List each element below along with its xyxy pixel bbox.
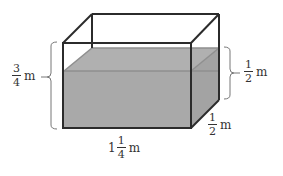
water-height-denominator: 2 [245, 72, 252, 84]
length-label: 1 1 4 m [108, 135, 140, 160]
tank-top-right-edge [191, 14, 219, 43]
water-front-face [64, 71, 191, 128]
length-numerator: 1 [117, 135, 126, 148]
right-brace [224, 47, 234, 99]
left-brace [47, 42, 57, 129]
water-height-fraction: 1 2 [244, 59, 253, 84]
tank-height-denominator: 4 [13, 76, 20, 88]
length-denominator: 4 [118, 148, 125, 160]
tank-height-label: 3 4 m [12, 63, 35, 88]
tank-diagram [0, 0, 283, 176]
length-unit: m [129, 141, 140, 155]
water-height-numerator: 1 [244, 59, 253, 72]
water-height-unit: m [256, 65, 267, 79]
depth-unit: m [220, 118, 231, 132]
tank-height-numerator: 3 [12, 63, 21, 76]
length-fraction: 1 4 [117, 135, 126, 160]
water-height-label: 1 2 m [244, 59, 267, 84]
depth-numerator: 1 [208, 112, 217, 125]
tank-height-fraction: 3 4 [12, 63, 21, 88]
depth-fraction: 1 2 [208, 112, 217, 137]
depth-denominator: 2 [209, 125, 216, 137]
tank-height-unit: m [24, 69, 35, 83]
tank-top-left-edge [63, 14, 92, 43]
length-whole: 1 [108, 141, 116, 155]
depth-label: 1 2 m [208, 112, 231, 137]
